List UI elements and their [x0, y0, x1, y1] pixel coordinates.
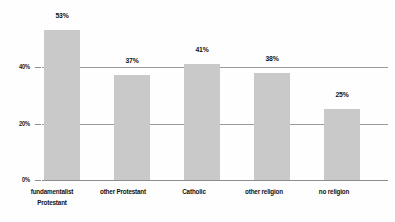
x-axis-baseline — [42, 180, 388, 181]
x-label-line-1: Catholic — [160, 186, 227, 197]
x-label-line-1: other Protestant — [89, 186, 158, 197]
tick-mark-0 — [35, 180, 41, 181]
bar-other-religion[interactable] — [254, 73, 290, 180]
tick-mark-40 — [35, 67, 41, 68]
y-tick-label-0: 0% — [5, 176, 30, 183]
x-label-fundamentalist-protestant: fundamentalist Protestant — [18, 186, 85, 208]
x-label-other-protestant: other Protestant — [89, 186, 158, 197]
bar-chart: 40% 20% 0% 53% 37% 41% 38% 25% fu — [0, 0, 395, 222]
x-label-line-1: fundamentalist — [18, 186, 85, 197]
bar-catholic[interactable] — [184, 64, 220, 180]
bar-value-other-religion: 38% — [255, 54, 289, 63]
x-label-line-1: other religion — [230, 186, 297, 197]
bar-fundamentalist-protestant[interactable] — [44, 30, 80, 180]
x-label-line-1: no religion — [300, 186, 367, 197]
x-label-line-2: Protestant — [18, 197, 85, 208]
x-label-no-religion: no religion — [300, 186, 367, 197]
x-label-catholic: Catholic — [160, 186, 227, 197]
y-tick-label-40: 40% — [5, 63, 30, 70]
x-label-other-religion: other religion — [230, 186, 297, 197]
y-axis: 40% 20% 0% — [0, 0, 40, 181]
bar-value-catholic: 41% — [185, 45, 219, 54]
bar-value-no-religion: 25% — [325, 90, 359, 99]
bar-other-protestant[interactable] — [114, 75, 150, 180]
bar-value-fundamentalist-protestant: 53% — [45, 11, 79, 20]
bar-no-religion[interactable] — [324, 109, 360, 180]
bar-value-other-protestant: 37% — [115, 56, 149, 65]
plot-area: 53% 37% 41% 38% 25% — [42, 0, 388, 181]
y-tick-label-20: 20% — [5, 120, 30, 127]
tick-mark-20 — [35, 124, 41, 125]
